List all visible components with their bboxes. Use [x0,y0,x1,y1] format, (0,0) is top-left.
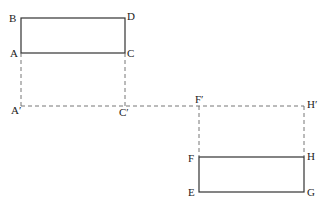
label-c-prime: C′ [119,106,129,118]
label-f: F [188,152,194,164]
label-h-prime: H′ [307,98,317,110]
label-a-prime: A′ [11,104,21,116]
diagram-canvas: B D A C A′ C′ F′ H′ F H E G [0,0,325,208]
label-h: H [307,150,315,162]
label-g: G [307,186,315,198]
projection-diagram: B D A C A′ C′ F′ H′ F H E G [0,0,325,208]
label-c: C [127,47,134,59]
rectangle-efgh [199,157,304,192]
label-b: B [9,12,16,24]
rectangle-abcd [21,18,125,53]
label-d: D [127,10,135,22]
label-f-prime: F′ [195,93,204,105]
label-a: A [10,47,18,59]
label-e: E [188,186,195,198]
